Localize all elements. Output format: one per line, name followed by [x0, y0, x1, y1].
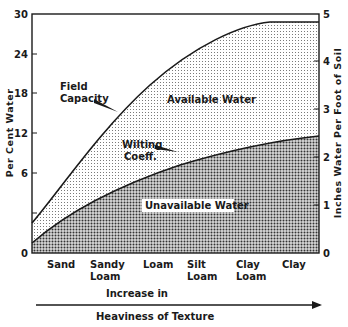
category-clay-loam-1: Clay [236, 259, 260, 270]
right-tick-2: 2 [323, 152, 330, 163]
wilting-coeff-label-2: Coeff. [124, 151, 157, 162]
arrow-head-icon [312, 301, 322, 309]
category-silt-loam-2: Loam [187, 271, 217, 282]
right-tick-1: 1 [323, 200, 330, 211]
x-axis-title-top: Increase in [106, 288, 168, 299]
soil-water-chart: 30 24 18 12 6 0 5 4 3 2 1 0 Per Cent Wat… [0, 0, 348, 327]
category-sand: Sand [47, 259, 75, 270]
left-y-axis-title: Per Cent Water [4, 89, 15, 178]
left-y-ticks [32, 54, 37, 213]
category-clay: Clay [282, 259, 306, 270]
y-tick-12: 12 [14, 128, 28, 139]
right-tick-5: 5 [323, 9, 330, 20]
category-silt-loam-1: Silt [187, 259, 206, 270]
y-tick-0: 0 [21, 248, 28, 259]
right-tick-3: 3 [323, 104, 330, 115]
category-loam: Loam [143, 259, 173, 270]
y-tick-30: 30 [14, 9, 28, 20]
right-tick-0: 0 [323, 248, 330, 259]
category-clay-loam-2: Loam [236, 271, 266, 282]
y-tick-6: 6 [21, 168, 28, 179]
right-tick-4: 4 [323, 56, 330, 67]
x-axis-title-bottom: Heaviness of Texture [96, 311, 214, 322]
category-sandy-loam-1: Sandy [90, 259, 125, 270]
available-water-label: Available Water [167, 94, 256, 105]
field-capacity-label-1: Field [60, 81, 88, 92]
right-y-axis-title: Inches Water Per Foot of Soil [332, 48, 343, 218]
category-sandy-loam-2: Loam [90, 271, 120, 282]
unavailable-water-label: Unavailable Water [145, 200, 249, 211]
y-tick-18: 18 [14, 88, 28, 99]
field-capacity-label-2: Capacity [60, 93, 109, 104]
y-tick-24: 24 [14, 49, 28, 60]
